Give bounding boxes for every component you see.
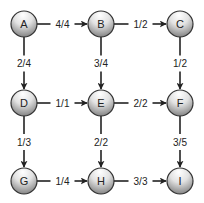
edge-label: 2/2	[134, 98, 148, 109]
edge-a-b: 4/4	[37, 19, 87, 30]
node-c: C	[167, 11, 193, 37]
node-label: B	[97, 18, 104, 30]
node-i: I	[167, 168, 193, 194]
edge-b-e: 3/4	[94, 37, 108, 89]
flow-network-diagram: 4/41/22/43/41/21/12/21/32/23/51/43/3 ABC…	[0, 0, 204, 203]
node-label: E	[97, 97, 104, 109]
edge-e-h: 2/2	[94, 116, 108, 167]
edge-h-i: 3/3	[114, 176, 166, 187]
edge-label: 2/4	[17, 58, 31, 69]
edge-label: 3/5	[173, 137, 187, 148]
edge-b-c: 1/2	[114, 19, 166, 30]
node-a: A	[11, 11, 37, 37]
node-label: A	[20, 18, 28, 30]
edge-label: 1/2	[134, 19, 148, 30]
edge-a-d: 2/4	[17, 37, 31, 89]
edge-d-g: 1/3	[17, 116, 31, 167]
node-label: D	[20, 97, 28, 109]
edge-g-h: 1/4	[37, 176, 87, 187]
edge-c-f: 1/2	[173, 37, 187, 89]
edge-label: 3/3	[134, 176, 148, 187]
node-label: C	[176, 18, 184, 30]
edge-label: 3/4	[94, 58, 108, 69]
node-d: D	[11, 90, 37, 116]
node-label: I	[178, 175, 181, 187]
node-f: F	[167, 90, 193, 116]
edge-label: 1/1	[56, 98, 70, 109]
node-label: F	[177, 97, 184, 109]
edge-label: 2/2	[94, 137, 108, 148]
edge-f-i: 3/5	[173, 116, 187, 167]
edge-label: 1/3	[17, 137, 31, 148]
node-g: G	[11, 168, 37, 194]
edge-label: 4/4	[56, 19, 70, 30]
node-label: G	[20, 175, 29, 187]
node-h: H	[88, 168, 114, 194]
node-e: E	[88, 90, 114, 116]
diagram-canvas: 4/41/22/43/41/21/12/21/32/23/51/43/3 ABC…	[0, 0, 204, 203]
node-b: B	[88, 11, 114, 37]
edge-label: 1/2	[173, 58, 187, 69]
edge-d-e: 1/1	[37, 98, 87, 109]
node-label: H	[97, 175, 105, 187]
edge-label: 1/4	[56, 176, 70, 187]
edge-e-f: 2/2	[114, 98, 166, 109]
